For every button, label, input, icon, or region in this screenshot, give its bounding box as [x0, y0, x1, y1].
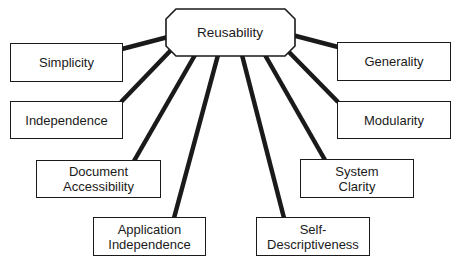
- node-label-line2: Clarity: [339, 179, 376, 194]
- node-label: Independence: [25, 113, 107, 128]
- node-label-line2: Accessibility: [63, 179, 134, 194]
- node-label-line1: Document: [69, 164, 128, 179]
- node-modularity: Modularity: [337, 101, 451, 139]
- edge-independence: [121, 48, 173, 102]
- node-label: Simplicity: [39, 55, 94, 70]
- node-label-line1: Application: [118, 222, 182, 237]
- edge-simplicity: [122, 37, 168, 49]
- node-label-line1: Self-: [300, 222, 327, 237]
- node-independence: Independence: [10, 101, 123, 139]
- center-label: Reusability: [197, 25, 263, 40]
- node-self-descriptiveness: Self- Descriptiveness: [256, 217, 370, 256]
- edge-document-accessibility: [134, 55, 195, 161]
- edge-modularity: [285, 48, 338, 102]
- node-generality: Generality: [337, 42, 451, 81]
- center-node-reusability: Reusability: [165, 9, 295, 56]
- node-label: Modularity: [364, 113, 424, 128]
- node-simplicity: Simplicity: [10, 43, 123, 82]
- node-system-clarity: System Clarity: [300, 159, 414, 198]
- node-label-line1: System: [335, 164, 378, 179]
- edge-generality: [292, 35, 338, 47]
- edge-system-clarity: [265, 55, 325, 160]
- node-document-accessibility: Document Accessibility: [36, 160, 161, 198]
- node-label: Generality: [364, 54, 423, 69]
- node-label-line2: Descriptiveness: [267, 237, 359, 252]
- node-label-line2: Independence: [108, 237, 190, 252]
- node-application-independence: Application Independence: [93, 217, 206, 256]
